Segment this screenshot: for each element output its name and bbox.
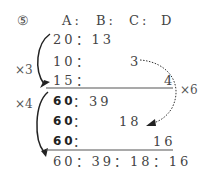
row-6-rest: ： (73, 135, 89, 148)
row-4-rest: ：39 (73, 95, 112, 108)
arrow-x3 (38, 34, 50, 84)
arrow-x6 (140, 60, 176, 124)
header-d: D (161, 14, 174, 27)
multiplier-x3: ×3 (15, 64, 33, 76)
row-2-a: 10： (53, 55, 92, 68)
header-b: B: (96, 14, 116, 27)
row-3-d: 4 (164, 74, 175, 87)
problem-number: ⑤ (17, 14, 32, 27)
row-5-c: 18 (119, 115, 142, 128)
result-row: 60：39：18：16 (53, 155, 191, 168)
arrow-x4 (37, 92, 48, 152)
multiplier-x4: ×4 (15, 98, 33, 110)
row-6-d: 16 (153, 135, 176, 148)
row-5-rest: ： (73, 115, 89, 128)
row-1: 20：13 (53, 33, 114, 46)
row-3-a: 15： (53, 74, 92, 87)
row-2-c: 3 (130, 55, 141, 68)
header-c: C: (129, 14, 149, 27)
header-a: A: (62, 14, 82, 27)
multiplier-x6: ×6 (180, 84, 198, 96)
